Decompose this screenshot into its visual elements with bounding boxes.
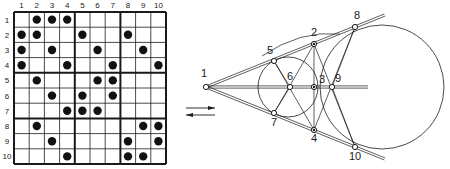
grid-dot bbox=[63, 152, 71, 160]
grid-dot bbox=[124, 31, 132, 39]
grid-dot bbox=[109, 61, 117, 69]
grid-dot bbox=[63, 61, 71, 69]
point-label: 3 bbox=[319, 73, 325, 85]
grid-dot bbox=[17, 31, 25, 39]
point-10 bbox=[352, 144, 357, 149]
grid-dot bbox=[48, 15, 56, 23]
construction-line bbox=[274, 87, 290, 113]
grid-dot bbox=[17, 61, 25, 69]
grid-dot bbox=[63, 107, 71, 115]
dot-grid-puzzle: 1234567891012345678910 bbox=[3, 1, 166, 164]
grid-dot bbox=[154, 61, 162, 69]
upper-tangent-line bbox=[206, 16, 385, 88]
point-1 bbox=[203, 84, 208, 89]
row-label: 3 bbox=[5, 46, 10, 55]
grid-dot bbox=[63, 15, 71, 23]
grid-dot bbox=[139, 46, 147, 54]
geometric-construction: 12345678910 bbox=[186, 9, 444, 162]
point-label: 8 bbox=[354, 9, 360, 21]
row-label: 5 bbox=[5, 76, 10, 85]
grid-dot bbox=[33, 31, 41, 39]
column-label: 6 bbox=[95, 1, 100, 10]
point-label: 6 bbox=[287, 70, 293, 82]
grid-dot bbox=[109, 91, 117, 99]
column-label: 5 bbox=[80, 1, 85, 10]
grid-dot bbox=[124, 137, 132, 145]
grid-dot bbox=[93, 46, 101, 54]
grid-dot bbox=[154, 122, 162, 130]
point-center-mark bbox=[313, 129, 315, 131]
grid-dot bbox=[139, 152, 147, 160]
point-center-mark bbox=[313, 86, 315, 88]
grid-dot bbox=[48, 91, 56, 99]
large-circle bbox=[320, 25, 444, 149]
point-label: 9 bbox=[335, 72, 341, 84]
column-label: 2 bbox=[35, 1, 40, 10]
point-label: 5 bbox=[267, 44, 273, 56]
arrowhead-icon bbox=[208, 106, 215, 110]
row-label: 4 bbox=[5, 61, 10, 70]
column-label: 3 bbox=[50, 1, 55, 10]
point-9 bbox=[329, 84, 334, 89]
point-label: 1 bbox=[201, 67, 207, 79]
column-label: 1 bbox=[19, 1, 24, 10]
row-label: 2 bbox=[5, 31, 10, 40]
row-label: 7 bbox=[5, 107, 10, 116]
point-center-mark bbox=[313, 43, 315, 45]
row-label: 6 bbox=[5, 92, 10, 101]
point-label: 10 bbox=[349, 150, 361, 162]
grid-dot bbox=[33, 122, 41, 130]
point-label: 4 bbox=[311, 132, 317, 144]
grid-dot bbox=[109, 76, 117, 84]
row-label: 8 bbox=[5, 122, 10, 131]
grid-dot bbox=[48, 137, 56, 145]
row-label: 1 bbox=[5, 16, 10, 25]
point-5 bbox=[271, 58, 276, 63]
grid-dot bbox=[48, 46, 56, 54]
column-label: 9 bbox=[141, 1, 146, 10]
point-6 bbox=[287, 84, 292, 89]
upper-tangent-line bbox=[206, 14, 385, 86]
column-label: 4 bbox=[65, 1, 70, 10]
grid-dot bbox=[139, 122, 147, 130]
point-7 bbox=[271, 110, 276, 115]
column-label: 8 bbox=[126, 1, 131, 10]
grid-dot bbox=[154, 137, 162, 145]
arrowhead-icon bbox=[186, 113, 193, 117]
point-8 bbox=[352, 24, 357, 29]
figure: 1234567891012345678910 12345678910 bbox=[0, 0, 450, 169]
grid-dot bbox=[33, 76, 41, 84]
column-label: 7 bbox=[111, 1, 116, 10]
lower-tangent-line bbox=[206, 86, 385, 158]
row-label: 9 bbox=[5, 137, 10, 146]
grid-dot bbox=[33, 15, 41, 23]
row-label: 10 bbox=[3, 152, 12, 161]
grid-dot bbox=[17, 46, 25, 54]
point-label: 2 bbox=[311, 26, 317, 38]
grid-dot bbox=[93, 76, 101, 84]
point-label: 7 bbox=[271, 116, 277, 128]
grid-dot bbox=[124, 152, 132, 160]
grid-dot bbox=[78, 107, 86, 115]
grid-dot bbox=[93, 107, 101, 115]
grid-dot bbox=[78, 91, 86, 99]
column-label: 10 bbox=[154, 1, 163, 10]
grid-dot bbox=[78, 31, 86, 39]
